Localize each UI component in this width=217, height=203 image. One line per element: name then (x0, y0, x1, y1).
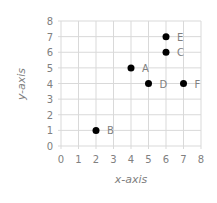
x-tick-label: 3 (110, 154, 116, 165)
x-tick-label: 1 (75, 154, 81, 165)
x-tick-label: 8 (198, 154, 204, 165)
x-tick-label: 4 (128, 154, 134, 165)
x-tick-label: 7 (180, 154, 186, 165)
data-point-label: E (177, 32, 183, 43)
y-tick-label: 8 (47, 16, 53, 27)
data-point-label: B (107, 125, 114, 136)
x-axis-ticks: 012345678 (58, 154, 204, 165)
x-axis-title: x-axis (114, 173, 148, 186)
x-tick-label: 0 (58, 154, 64, 165)
data-point-marker (145, 80, 152, 87)
data-point-marker (180, 80, 187, 87)
y-axis-title: y-axis (15, 68, 28, 101)
y-tick-label: 7 (47, 32, 53, 43)
y-tick-label: 6 (47, 47, 53, 58)
data-point-label: C (177, 47, 184, 58)
scatter-chart: 012345678 012345678 ABCDEF x-axis y-axis (0, 0, 217, 203)
y-axis-ticks: 012345678 (47, 16, 53, 152)
y-tick-label: 4 (47, 79, 53, 90)
x-tick-label: 5 (145, 154, 151, 165)
data-point-marker (163, 49, 170, 56)
y-tick-label: 3 (47, 94, 53, 105)
y-tick-label: 1 (47, 125, 53, 136)
data-point-marker (93, 127, 100, 134)
y-tick-label: 5 (47, 63, 53, 74)
data-point-label: D (160, 79, 168, 90)
y-tick-label: 0 (47, 141, 53, 152)
data-point-marker (128, 64, 135, 71)
x-tick-label: 6 (163, 154, 169, 165)
data-point-label: F (195, 79, 201, 90)
data-point-marker (163, 33, 170, 40)
x-tick-label: 2 (93, 154, 99, 165)
data-point-label: A (142, 63, 149, 74)
y-tick-label: 2 (47, 110, 53, 121)
